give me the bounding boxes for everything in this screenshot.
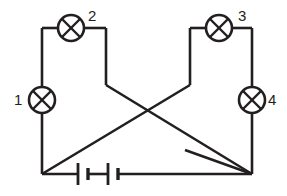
wiring-group bbox=[42, 28, 252, 174]
lamp-3-label: 3 bbox=[238, 8, 246, 23]
lamp-2 bbox=[58, 15, 84, 41]
lamp-3 bbox=[206, 15, 232, 41]
lamp-4-label: 4 bbox=[268, 92, 276, 107]
lamp-4 bbox=[239, 87, 265, 113]
battery-symbol bbox=[78, 163, 118, 185]
wire-diagonal-right-down bbox=[42, 85, 190, 174]
lamp-1 bbox=[29, 87, 55, 113]
wire-diagonal-left-down bbox=[106, 85, 252, 174]
circuit-diagram: 1 2 3 4 bbox=[0, 0, 287, 196]
crossing-wires-group bbox=[42, 85, 252, 174]
lamp-1-label: 1 bbox=[14, 92, 22, 107]
lamp-2-label: 2 bbox=[88, 8, 96, 23]
circuit-canvas bbox=[0, 0, 287, 196]
